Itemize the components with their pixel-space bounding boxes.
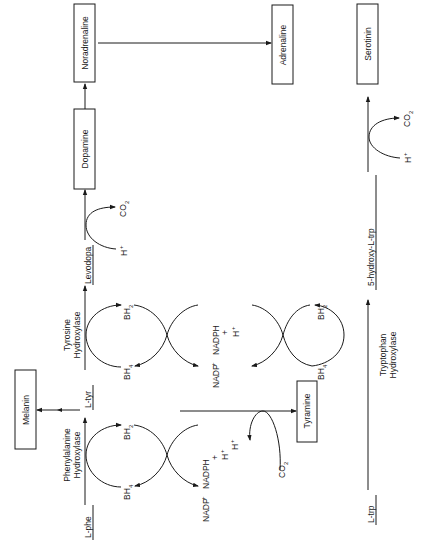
svg-text:+: + (229, 439, 235, 443)
svg-text:+: + (219, 449, 225, 453)
phe-hydroxylase-label-1: Phenylalanine (62, 428, 72, 482)
svg-text:NADPH: NADPH (211, 325, 221, 355)
h-plus-phe: H+ (219, 449, 230, 460)
l-tyr-label: L-tyr (83, 391, 93, 408)
l-phe-label: L-phe (83, 516, 93, 538)
svg-text:BH: BH (316, 308, 326, 320)
svg-text:4: 4 (128, 364, 134, 368)
svg-text:CO: CO (118, 204, 128, 217)
svg-text:+: + (118, 245, 124, 249)
bh2-trp: BH2 (316, 304, 328, 320)
svg-text:+: + (402, 152, 408, 156)
bh4-trp: BH4 (316, 364, 328, 380)
bh2-phe: BH2 (122, 424, 134, 440)
plus-tyr: + (220, 330, 230, 335)
svg-text:NADP: NADP (211, 364, 221, 388)
bh4-phe: BH4 (122, 484, 134, 500)
co2-5htp: CO2 (402, 110, 414, 127)
svg-text:H: H (231, 331, 241, 337)
bh-cycle-tyr (86, 305, 121, 367)
svg-text:BH: BH (122, 428, 132, 440)
svg-text:+: + (230, 326, 236, 330)
serotinin-label: Serotinin (363, 27, 373, 61)
l-trp-label: L-trp (366, 505, 376, 523)
phe-hydroxylase-label-2: Hydroxylase (72, 431, 82, 478)
svg-text:2: 2 (408, 110, 414, 114)
h-plus-5htp: H+ (402, 152, 413, 163)
bh2-tyr: BH2 (122, 304, 134, 320)
svg-text:BH: BH (122, 368, 132, 380)
svg-text:+: + (200, 496, 206, 500)
levodopa-label: Levodopa (83, 246, 93, 284)
melanin-label: Melanin (21, 395, 31, 425)
bh-cycle-trp (252, 305, 283, 366)
h-plus-tyramine: H+ (229, 439, 240, 450)
decarboxylation-arc-tyramine (250, 411, 281, 470)
svg-text:2: 2 (283, 461, 289, 465)
svg-text:+: + (210, 362, 216, 366)
bh4-tyr: BH4 (122, 364, 134, 380)
trp-hydroxylase-label-2: Hydroxylase (388, 331, 398, 378)
svg-text:2: 2 (128, 424, 134, 428)
svg-text:2: 2 (128, 304, 134, 308)
svg-text:NADP: NADP (201, 498, 211, 522)
co2-dopa: CO2 (118, 200, 130, 217)
svg-text:BH: BH (122, 488, 132, 500)
co2-tyramine: CO2 (277, 461, 289, 478)
bh-cycle-phe (86, 425, 121, 487)
decarboxylation-arc-5htp (369, 118, 400, 158)
svg-text:BH: BH (122, 308, 132, 320)
plus-phe: + (210, 455, 220, 460)
svg-text:2: 2 (322, 304, 328, 308)
tyr-hydroxylase-label-2: Hydroxylase (72, 311, 82, 358)
svg-text:H: H (230, 444, 240, 450)
svg-text:NADPH: NADPH (201, 459, 211, 489)
nadp-phe: NADP+NADPH (200, 459, 211, 522)
tyramine-label: Tyramine (302, 393, 312, 428)
svg-text:H: H (403, 157, 413, 163)
tyr-hydroxylase-label-1: Tyrosine (62, 319, 72, 351)
h-plus-dopa: H+ (118, 245, 129, 256)
trp-hydroxylase-label-1: Tryptophan (378, 333, 388, 376)
svg-text:H: H (220, 454, 230, 460)
adrenaline-label: Adrenaline (278, 24, 288, 65)
svg-text:2: 2 (124, 200, 130, 204)
h-plus-tyr: H+ (230, 326, 241, 337)
dopamine-label: Dopamine (80, 129, 90, 168)
svg-text:CO: CO (402, 114, 412, 127)
svg-text:BH: BH (316, 368, 326, 380)
svg-text:CO: CO (277, 465, 287, 478)
svg-text:4: 4 (128, 484, 134, 488)
pathway-diagram: Noradrenaline Adrenaline Serotinin Dopam… (0, 0, 422, 540)
svg-text:4: 4 (322, 364, 328, 368)
decarboxylation-arc-dopa (86, 207, 116, 249)
5-hydroxy-l-trp-label: 5-hydroxy-L-trp (366, 228, 376, 286)
svg-text:H: H (119, 250, 129, 256)
noradrenaline-label: Noradrenaline (80, 16, 90, 70)
